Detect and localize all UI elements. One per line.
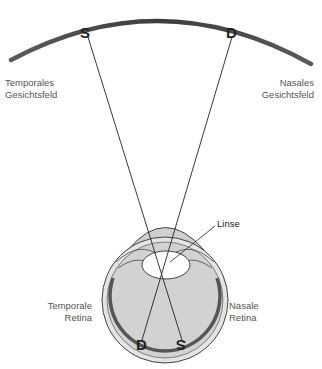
- lens: [142, 251, 190, 279]
- retina-letter-d: D: [136, 337, 147, 354]
- field-letter-d: D: [226, 24, 237, 41]
- label-lens: Linse: [217, 218, 240, 230]
- label-temporal-field: Temporales Gesichtsfeld: [5, 77, 57, 101]
- eyeball: [102, 228, 228, 364]
- field-letter-s: S: [80, 24, 90, 41]
- label-temporal-retina: Temporale Retina: [48, 300, 92, 324]
- label-nasal-field: Nasales Gesichtsfeld: [262, 77, 314, 101]
- visual-field-arc: [11, 21, 311, 64]
- retina-letter-s: S: [176, 337, 186, 354]
- label-nasal-retina: Nasale Retina: [229, 300, 259, 324]
